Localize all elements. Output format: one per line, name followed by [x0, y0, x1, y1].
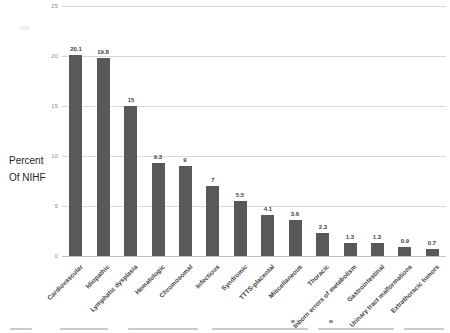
bar-value-label: 20.1	[61, 46, 91, 53]
bar-value-label: 9.3	[143, 154, 173, 161]
gridline-15	[62, 106, 446, 107]
y-tick-label-10: 10	[40, 153, 58, 159]
category-label: Cardiovascular	[46, 263, 84, 301]
category-label: Lymphatic dysplasia	[89, 263, 139, 313]
category-label: Syndromic	[220, 263, 249, 292]
y-tick-label-0: 0	[40, 253, 58, 259]
gridline-10	[62, 156, 446, 157]
bar-value-label: 1.3	[335, 234, 365, 241]
bar-value-label: 2.3	[308, 224, 338, 231]
bar-value-label: 15	[116, 97, 146, 104]
bar-value-label: 1.3	[362, 234, 392, 241]
bar-value-label: 3.6	[280, 211, 310, 218]
bar-idiopathic	[97, 58, 110, 256]
gridline-20	[62, 56, 446, 57]
bar-value-label: 7	[198, 177, 228, 184]
y-tick-label-25: 25	[40, 3, 58, 9]
gridline-0	[62, 256, 446, 257]
bar-cardiovascular	[69, 55, 82, 256]
category-label: Extrathoracic tumors	[389, 263, 440, 314]
bar-lymphatic-dysplasia	[124, 106, 137, 256]
y-axis-title-line2: Of NIHF	[9, 169, 46, 186]
bar-chromosomal	[179, 166, 192, 256]
bar-ttts-placental	[261, 215, 274, 256]
bar-value-label: 19.8	[88, 49, 118, 56]
bar-infectious	[206, 186, 219, 256]
category-label: Idiopathic	[84, 263, 111, 290]
bar-value-label: 4.1	[253, 206, 283, 213]
bar-hematologic	[152, 163, 165, 256]
bar-chart-figure: Percent Of NIHF 051015202520.1Cardiovasc…	[0, 0, 450, 333]
y-tick-label-15: 15	[40, 103, 58, 109]
bar-gastrointestinal	[371, 243, 384, 256]
bar-miscellaneous	[289, 220, 302, 256]
y-tick-label-20: 20	[40, 53, 58, 59]
bar-extrathoracic-tumors	[426, 249, 439, 256]
bar-value-label: 0.9	[390, 238, 420, 245]
bar-thoracic	[316, 233, 329, 256]
bar-value-label: 9	[170, 157, 200, 164]
bar-value-label: 5.5	[225, 192, 255, 199]
gridline-25	[62, 6, 446, 7]
y-tick-label-5: 5	[40, 203, 58, 209]
bar-value-label: 0.7	[417, 240, 447, 247]
category-label: Thoracic	[306, 263, 330, 287]
category-label: Infectious	[194, 263, 221, 290]
page-smudge	[20, 26, 30, 30]
bar-inborn-errors-of-metabolism	[344, 243, 357, 256]
bar-syndromic	[234, 201, 247, 256]
bar-urinary-tract-malformations	[398, 247, 411, 256]
